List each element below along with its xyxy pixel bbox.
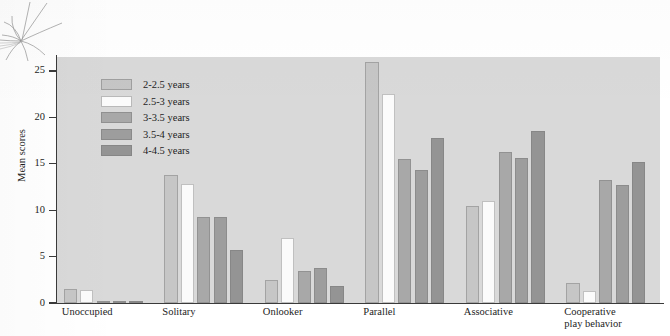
legend-swatch	[101, 112, 132, 123]
x-axis-category-label: Onlooker	[263, 306, 303, 318]
bar	[129, 301, 142, 303]
legend-label: 3-3.5 years	[143, 112, 190, 123]
y-axis-tick-label: 10	[0, 205, 45, 215]
legend-swatch	[101, 96, 132, 107]
bar-group	[566, 57, 645, 303]
bar	[113, 301, 126, 303]
x-axis-category-label: Solitary	[162, 306, 195, 318]
bar	[583, 291, 596, 303]
legend-item: 2-2.5 years	[101, 77, 251, 92]
bar	[599, 180, 612, 303]
x-axis-category-label: Associative	[464, 306, 513, 318]
y-axis-tick	[49, 302, 57, 303]
y-axis-tick-label: 15	[0, 158, 45, 168]
legend-swatch	[101, 79, 132, 90]
bar	[632, 162, 645, 303]
bar	[281, 238, 294, 303]
bar	[314, 268, 327, 303]
bar	[330, 286, 343, 303]
x-axis-category-label: Unoccupied	[62, 306, 113, 318]
y-axis-tick	[49, 210, 57, 211]
bar	[531, 131, 544, 303]
legend-swatch	[101, 129, 132, 140]
x-axis-line	[49, 303, 664, 304]
bar	[616, 185, 629, 303]
bar	[365, 62, 378, 303]
legend-item: 2.5-3 years	[101, 94, 251, 109]
y-axis-tick-label: 5	[0, 251, 45, 261]
bar	[214, 217, 227, 303]
x-axis-category-label: Cooperative play behavior	[564, 306, 621, 329]
legend-label: 3.5-4 years	[143, 129, 190, 140]
y-axis-tick	[49, 117, 57, 118]
legend-item: 4-4.5 years	[101, 143, 251, 158]
y-axis-title: Mean scores	[16, 111, 27, 201]
bar-group	[365, 57, 444, 303]
bar	[97, 301, 110, 303]
legend-item: 3.5-4 years	[101, 127, 251, 142]
y-axis-tick-label: 0	[0, 298, 45, 308]
y-axis-tick	[49, 163, 57, 164]
legend-label: 4-4.5 years	[143, 145, 190, 156]
bar	[382, 94, 395, 303]
legend-swatch	[101, 145, 132, 156]
y-axis-tick	[49, 70, 57, 71]
bar	[265, 280, 278, 303]
bar	[164, 175, 177, 303]
bar	[181, 184, 194, 303]
bar	[64, 289, 77, 303]
y-axis-tick	[49, 256, 57, 257]
chart-legend: 2-2.5 years2.5-3 years3-3.5 years3.5-4 y…	[101, 77, 251, 160]
legend-item: 3-3.5 years	[101, 110, 251, 125]
legend-label: 2-2.5 years	[143, 79, 190, 90]
bar	[230, 250, 243, 303]
y-axis-tick-label: 20	[0, 112, 45, 122]
bar	[80, 290, 93, 303]
bar	[499, 152, 512, 303]
bar	[431, 138, 444, 303]
scan-artifact-ink-mark	[0, 0, 80, 62]
bar-group	[466, 57, 545, 303]
bar	[197, 217, 210, 303]
y-axis-tick-label: 25	[0, 65, 45, 75]
bar	[566, 283, 579, 303]
bar	[415, 170, 428, 303]
bar	[482, 201, 495, 303]
bar	[515, 158, 528, 303]
x-axis-category-label: Parallel	[363, 306, 395, 318]
bar-group	[265, 57, 344, 303]
bar-chart-figure: Mean scores 0510152025 UnoccupiedSolitar…	[0, 0, 670, 336]
bar	[466, 206, 479, 303]
bar	[298, 271, 311, 303]
legend-label: 2.5-3 years	[143, 96, 190, 107]
bar	[398, 159, 411, 303]
